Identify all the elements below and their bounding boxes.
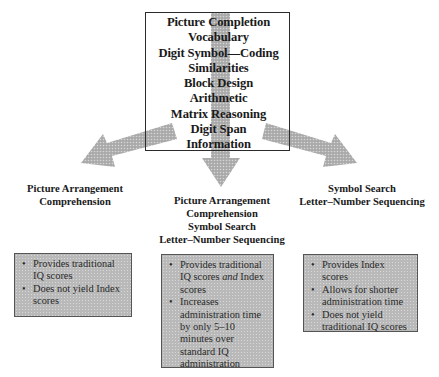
note-item: •Provides traditional IQ scores and Inde… [180, 259, 269, 296]
core-subtest: Information [145, 137, 292, 152]
branch-label-line: Picture Arrangement [0, 182, 150, 195]
left-notes-box: •Provides traditional IQ scores •Does no… [14, 253, 132, 317]
core-subtest: Matrix Reasoning [145, 107, 292, 122]
core-subtest: Vocabulary [145, 30, 292, 45]
note-item: •Increases administration time by only 5… [180, 296, 269, 370]
left-branch-label: Picture Arrangement Comprehension [0, 182, 150, 208]
branch-label-line: Symbol Search [285, 182, 439, 195]
bullet-icon: • [22, 283, 26, 295]
note-item: •Allows for shorter administration time [322, 284, 413, 309]
note-item: •Provides traditional IQ scores [33, 258, 127, 283]
center-branch-label: Picture Arrangement Comprehension Symbol… [142, 194, 302, 246]
core-subtest: Picture Completion [145, 15, 292, 30]
bullet-icon: • [311, 284, 315, 296]
bullet-icon: • [311, 259, 315, 271]
branch-label-line: Letter–Number Sequencing [285, 195, 439, 208]
core-subtest: Block Design [145, 76, 292, 91]
core-subtest: Digit Symbol—Coding [145, 46, 292, 61]
branch-label-line: Symbol Search [142, 220, 302, 233]
branch-label-line: Letter–Number Sequencing [142, 233, 302, 246]
core-subtest: Digit Span [145, 122, 292, 137]
branch-label-line: Picture Arrangement [142, 194, 302, 207]
bullet-icon: • [169, 259, 173, 271]
core-subtest: Arithmetic [145, 91, 292, 106]
note-item: •Does not yield Index scores [33, 283, 127, 308]
bullet-icon: • [311, 309, 315, 321]
note-item: •Does not yield traditional IQ scores [322, 309, 413, 334]
center-notes-box: •Provides traditional IQ scores and Inde… [161, 254, 274, 368]
bullet-icon: • [22, 258, 26, 270]
core-subtest: Similarities [145, 61, 292, 76]
core-subtests-list: Picture Completion Vocabulary Digit Symb… [145, 15, 292, 153]
branch-label-line: Comprehension [0, 195, 150, 208]
right-notes-box: •Provides Index scores •Allows for short… [303, 254, 418, 332]
right-branch-label: Symbol Search Letter–Number Sequencing [285, 182, 439, 208]
bullet-icon: • [169, 296, 173, 308]
note-item: •Provides Index scores [322, 259, 413, 284]
branch-label-line: Comprehension [142, 207, 302, 220]
